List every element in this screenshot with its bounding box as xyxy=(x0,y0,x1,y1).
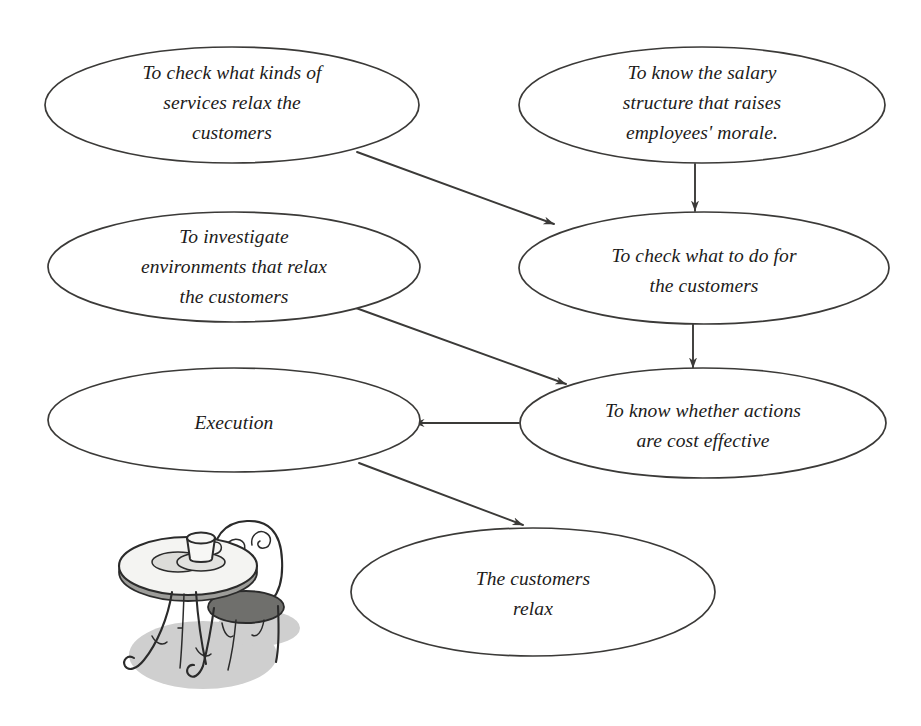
node-cost-effective-line-2: are cost effective xyxy=(636,430,769,451)
node-execution[interactable]: Execution xyxy=(48,368,420,472)
node-salary-line-2: structure that raises xyxy=(623,92,781,113)
node-services-line-2: services relax the xyxy=(163,92,301,113)
node-customers-relax-shape xyxy=(351,528,715,656)
edge-execution-to-customers-relax xyxy=(359,463,523,525)
node-customers-relax-line-1: The customers xyxy=(476,568,591,589)
node-salary[interactable]: To know the salary structure that raises… xyxy=(519,47,885,163)
node-customers-relax[interactable]: The customers relax xyxy=(351,528,715,656)
node-services-line-1: To check what kinds of xyxy=(142,62,324,83)
cafe-table-illustration xyxy=(119,518,300,698)
node-what-to-do[interactable]: To check what to do for the customers xyxy=(519,212,889,324)
node-cost-effective-line-1: To know whether actions xyxy=(605,400,801,421)
node-execution-line-1: Execution xyxy=(194,412,274,433)
node-what-to-do-line-1: To check what to do for xyxy=(611,245,797,266)
cup-rim xyxy=(187,533,215,544)
edge-environments-to-cost-effective xyxy=(356,308,566,384)
node-what-to-do-line-2: the customers xyxy=(649,275,758,296)
node-services-line-3: customers xyxy=(192,122,272,143)
flowchart-canvas: To check what kinds of services relax th… xyxy=(0,0,921,726)
diagram-root: To check what kinds of services relax th… xyxy=(0,0,921,726)
node-environments-line-2: environments that relax xyxy=(141,256,327,277)
node-cost-effective[interactable]: To know whether actions are cost effecti… xyxy=(520,368,886,478)
node-salary-line-1: To know the salary xyxy=(628,62,777,83)
node-services[interactable]: To check what kinds of services relax th… xyxy=(45,47,419,163)
edge-services-to-what-to-do xyxy=(357,152,554,224)
node-environments-line-3: the customers xyxy=(179,286,288,307)
node-environments-line-1: To investigate xyxy=(179,226,289,247)
node-what-to-do-shape xyxy=(519,212,889,324)
node-environments[interactable]: To investigate environments that relax t… xyxy=(48,212,420,322)
node-salary-line-3: employees' morale. xyxy=(626,122,778,143)
node-cost-effective-shape xyxy=(520,368,886,478)
node-customers-relax-line-2: relax xyxy=(513,598,553,619)
